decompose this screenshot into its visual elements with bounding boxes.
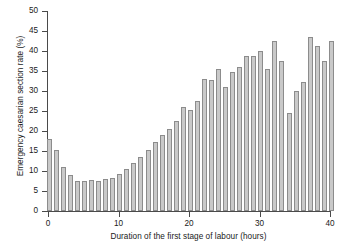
bar <box>47 139 52 211</box>
bar <box>237 67 242 211</box>
y-tick-label: 50 <box>20 7 38 15</box>
y-tick-label: 10 <box>20 167 38 175</box>
bar <box>216 69 221 211</box>
plot-area <box>48 11 330 211</box>
bar <box>89 180 94 211</box>
y-tick-label: 20 <box>20 127 38 135</box>
bar <box>54 150 59 211</box>
y-tick-label: 30 <box>20 87 38 95</box>
bar <box>265 69 270 211</box>
bar <box>167 129 172 211</box>
y-tick-mark <box>42 11 47 12</box>
y-tick-mark <box>42 131 47 132</box>
bar <box>124 169 129 211</box>
bar <box>251 56 256 211</box>
x-tick-mark <box>119 212 120 217</box>
y-tick-mark <box>42 91 47 92</box>
y-tick-label: 15 <box>20 147 38 155</box>
x-tick-label: 30 <box>248 219 272 228</box>
y-tick-label: 0 <box>20 207 38 215</box>
x-tick-label: 20 <box>177 219 201 228</box>
bar <box>110 178 115 211</box>
bar <box>223 87 228 211</box>
bar <box>329 41 334 211</box>
bar <box>103 179 108 211</box>
bar <box>258 51 263 211</box>
x-axis-label: Duration of the first stage of labour (h… <box>40 232 337 241</box>
y-tick-label: 45 <box>20 27 38 35</box>
bar <box>230 72 235 211</box>
x-tick-mark <box>189 212 190 217</box>
bar <box>160 135 165 211</box>
y-tick-mark <box>42 111 47 112</box>
bar <box>279 61 284 211</box>
y-tick-mark <box>42 51 47 52</box>
bar <box>117 174 122 211</box>
x-tick-label: 10 <box>107 219 131 228</box>
y-tick-mark <box>42 31 47 32</box>
bar <box>75 181 80 211</box>
y-tick-label: 40 <box>20 47 38 55</box>
y-tick-mark <box>42 71 47 72</box>
x-tick-label: 40 <box>318 219 337 228</box>
bar <box>138 157 143 211</box>
bar <box>287 113 292 211</box>
y-tick-mark <box>42 211 47 212</box>
bar <box>209 80 214 211</box>
bar <box>82 181 87 211</box>
bar <box>61 167 66 211</box>
x-tick-mark <box>48 212 49 217</box>
bar <box>96 181 101 211</box>
x-tick-mark <box>260 212 261 217</box>
bar <box>174 121 179 211</box>
chart-figure: Emergency caesarian section rate (%) 051… <box>0 0 337 248</box>
bar <box>68 175 73 211</box>
y-tick-label: 5 <box>20 187 38 195</box>
y-tick-label: 25 <box>20 107 38 115</box>
x-tick-label: 0 <box>36 219 60 228</box>
bar <box>322 61 327 211</box>
bar <box>146 150 151 211</box>
y-tick-label: 35 <box>20 67 38 75</box>
x-tick-mark <box>330 212 331 217</box>
bar <box>202 79 207 211</box>
bar <box>181 107 186 211</box>
bar <box>188 110 193 211</box>
bar <box>294 91 299 211</box>
bar <box>153 142 158 211</box>
bar <box>315 46 320 211</box>
bar <box>301 82 306 211</box>
bar <box>244 56 249 211</box>
bar <box>195 101 200 211</box>
bar <box>272 41 277 211</box>
bar <box>131 163 136 211</box>
bar <box>308 37 313 211</box>
